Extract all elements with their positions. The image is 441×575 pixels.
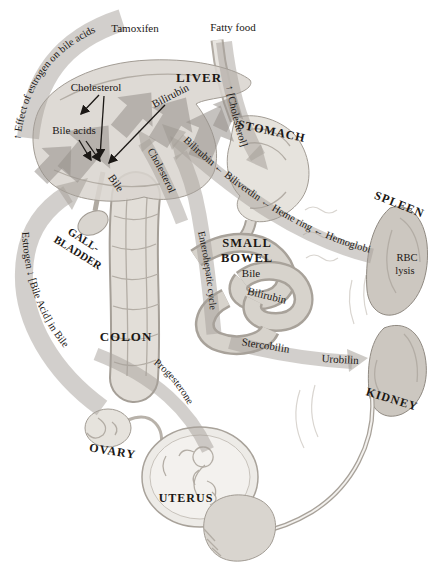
label-tamoxifen: Tamoxifen <box>111 22 159 34</box>
label-small: SMALL <box>222 236 271 250</box>
label-bile-acids: Bile acids <box>52 124 96 136</box>
diagram-canvas: Tamoxifen Fatty food ↑ Effect of estroge… <box>0 0 441 575</box>
label-fatty-food: Fatty food <box>210 21 256 33</box>
ureter-line <box>260 396 372 532</box>
label-colon: COLON <box>100 329 153 344</box>
label-bowel: BOWEL <box>221 251 273 265</box>
label-cholesterol-liver: Cholesterol <box>71 81 122 93</box>
label-urobilin: Urobilin <box>321 352 359 366</box>
label-bile-bowel: Bile <box>242 267 260 279</box>
bladder-shape <box>204 495 276 561</box>
label-lysis: lysis <box>395 265 414 276</box>
label-uterus: UTERUS <box>159 491 214 505</box>
label-ovary: OVARY <box>88 440 137 461</box>
colon-shape <box>112 196 159 378</box>
metabolism-diagram: Tamoxifen Fatty food ↑ Effect of estroge… <box>0 0 441 575</box>
label-rbc: RBC <box>396 252 417 263</box>
